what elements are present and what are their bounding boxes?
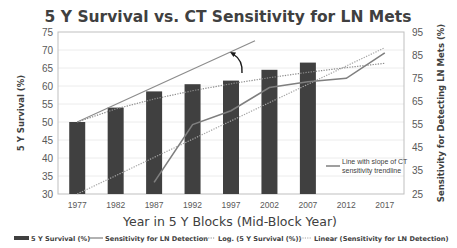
legend-item-survival: 5 Y Survival (%) — [31, 235, 90, 243]
right-tick-label: 55 — [412, 119, 424, 130]
curved-arrow-icon — [233, 54, 242, 73]
x-axis-ticks: 197719821987199219972002200720122017 — [68, 200, 395, 210]
survival-bar — [146, 91, 162, 194]
right-tick-label: 25 — [412, 189, 424, 200]
left-tick-label: 55 — [42, 99, 54, 110]
annotation-text-2: sensitivity trendline — [342, 167, 401, 175]
x-tick-label: 1992 — [183, 200, 202, 210]
left-tick-label: 30 — [42, 189, 54, 200]
legend-item-sensitivity: Sensitivity for LN Detection — [105, 235, 208, 243]
x-tick-label: 2012 — [337, 200, 356, 210]
x-tick-label: 1987 — [145, 200, 164, 210]
legend: 5 Y Survival (%) Sensitivity for LN Dete… — [14, 235, 449, 243]
left-tick-label: 45 — [42, 135, 54, 146]
left-axis-ticks: 30354045505560657075 — [42, 27, 54, 200]
right-tick-label: 95 — [412, 27, 424, 38]
right-tick-label: 75 — [412, 73, 424, 84]
x-tick-label: 1982 — [106, 200, 125, 210]
annotation-text-1: Line with slope of CT — [342, 158, 408, 166]
right-tick-label: 85 — [412, 50, 424, 61]
survival-bar — [261, 70, 277, 194]
right-tick-label: 65 — [412, 96, 424, 107]
left-tick-label: 35 — [42, 171, 54, 182]
legend-item-log-trend: Log. (5 Y Survival (%)) — [218, 235, 301, 243]
survival-bar — [223, 81, 239, 194]
x-tick-label: 1977 — [68, 200, 87, 210]
left-tick-label: 70 — [42, 45, 54, 56]
legend-bar-icon — [14, 236, 29, 240]
left-tick-label: 60 — [42, 81, 54, 92]
right-axis-ticks: 2535455565758595 — [412, 27, 424, 200]
left-axis-label: 5 Y Survival (%) — [16, 75, 26, 151]
chart: 5 Y Survival vs. CT Sensitivity for LN M… — [0, 0, 457, 248]
survival-bars — [69, 63, 316, 194]
chart-title: 5 Y Survival vs. CT Sensitivity for LN M… — [45, 8, 412, 26]
left-tick-label: 65 — [42, 63, 54, 74]
right-tick-label: 45 — [412, 142, 424, 153]
x-tick-label: 2017 — [375, 200, 394, 210]
left-tick-label: 75 — [42, 27, 54, 38]
left-tick-label: 50 — [42, 117, 54, 128]
left-tick-label: 40 — [42, 153, 54, 164]
x-tick-label: 2002 — [260, 200, 279, 210]
x-tick-label: 2007 — [298, 200, 317, 210]
right-axis-label: Sensitivity for Detecting LN Mets (%) — [436, 24, 446, 203]
x-tick-label: 1997 — [222, 200, 241, 210]
legend-item-linear-trend: Linear (Sensitivity for LN Detection) — [314, 235, 449, 243]
survival-bar — [69, 122, 85, 194]
right-tick-label: 35 — [412, 165, 424, 176]
survival-bar — [108, 108, 124, 194]
x-axis-label: Year in 5 Y Blocks (Mid-Block Year) — [122, 214, 337, 229]
